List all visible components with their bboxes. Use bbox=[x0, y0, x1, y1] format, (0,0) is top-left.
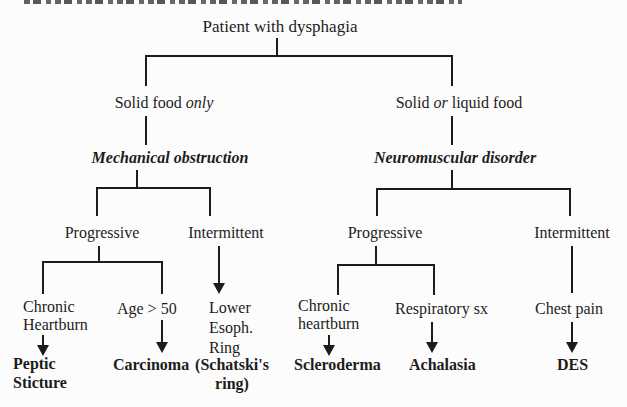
node-solid-or-liquid-food: Solid or liquid food bbox=[396, 94, 523, 112]
connector-split3-right-horizontal bbox=[337, 264, 435, 266]
node-chronic-heartburn-left: Chronic Heartburn bbox=[23, 298, 88, 334]
food-text-em: or bbox=[433, 94, 447, 111]
arrow-age-over-50-line bbox=[161, 320, 163, 343]
node-mechanical-obstruction: Mechanical obstruction bbox=[92, 149, 249, 167]
connector-root-stem bbox=[276, 38, 278, 56]
arrow-left-intermittent-head bbox=[213, 283, 225, 294]
connector-split1-right-drop bbox=[451, 55, 453, 86]
node-chronic-heartburn-right: Chronic heartburn bbox=[298, 297, 359, 333]
arrow-respiratory-sx-line bbox=[431, 322, 433, 343]
connector-split2-right-horizontal bbox=[376, 188, 571, 190]
node-neuromuscular-disorder: Neuromuscular disorder bbox=[374, 149, 536, 167]
arrow-age-over-50-head bbox=[156, 342, 168, 353]
connector-right-disorder-stem bbox=[451, 170, 453, 190]
connector-split3-left-drop-a bbox=[42, 261, 44, 294]
connector-split3-right-drop-b bbox=[433, 264, 435, 295]
arrow-chronic-heartburn-left-head bbox=[37, 345, 49, 356]
root-node-label: Patient with dysphagia bbox=[203, 18, 358, 36]
diagnosis-schatski-ring: (Schatski's ring) bbox=[195, 355, 269, 393]
connector-right-progressive-stem bbox=[375, 246, 377, 266]
diagnosis-achalasia: Achalasia bbox=[409, 355, 476, 374]
cropped-text-remnant bbox=[24, 0, 462, 4]
node-left-intermittent: Intermittent bbox=[188, 224, 264, 242]
connector-split1-horizontal bbox=[146, 55, 453, 57]
node-lower-esoph-ring: Lower Esoph. Ring bbox=[209, 298, 253, 358]
arrow-chronic-heartburn-right-head bbox=[323, 345, 335, 356]
node-right-progressive: Progressive bbox=[348, 224, 423, 242]
diagnosis-carcinoma: Carcinoma bbox=[113, 355, 189, 374]
connector-split2-left-horizontal bbox=[96, 187, 211, 189]
connector-right-intermittent-drop bbox=[571, 246, 573, 293]
arrow-chest-pain-line bbox=[571, 322, 573, 343]
node-chest-pain: Chest pain bbox=[535, 300, 603, 318]
diagnosis-scleroderma: Scleroderma bbox=[294, 355, 381, 374]
connector-split3-left-horizontal bbox=[42, 261, 163, 263]
arrow-left-intermittent-line bbox=[218, 246, 220, 284]
node-right-intermittent: Intermittent bbox=[534, 224, 610, 242]
connector-split2-right-drop-b bbox=[569, 188, 571, 216]
connector-split3-right-drop-a bbox=[337, 264, 339, 295]
food-text-post: liquid food bbox=[448, 94, 523, 111]
food-text-pre: Solid food bbox=[115, 94, 186, 111]
node-respiratory-sx: Respiratory sx bbox=[395, 300, 488, 318]
food-text-pre: Solid bbox=[396, 94, 434, 111]
arrow-chest-pain-head bbox=[566, 342, 578, 353]
node-solid-food-only: Solid food only bbox=[115, 94, 214, 112]
dysphagia-flowchart: Patient with dysphagia Solid food only S… bbox=[0, 0, 627, 407]
connector-left-food-stem bbox=[145, 116, 147, 145]
connector-right-food-stem bbox=[451, 116, 453, 145]
arrow-respiratory-sx-head bbox=[426, 342, 438, 353]
node-left-progressive: Progressive bbox=[65, 224, 140, 242]
connector-split1-left-drop bbox=[145, 55, 147, 86]
diagnosis-peptic-sticture: Peptic Sticture bbox=[13, 354, 67, 392]
connector-split2-right-drop-a bbox=[376, 188, 378, 216]
connector-split2-left-drop-a bbox=[96, 187, 98, 216]
food-text-em: only bbox=[186, 94, 214, 111]
node-age-over-50: Age > 50 bbox=[117, 300, 177, 318]
diagnosis-des: DES bbox=[557, 355, 588, 374]
connector-split3-left-drop-b bbox=[161, 261, 163, 294]
connector-split2-left-drop-b bbox=[209, 187, 211, 216]
